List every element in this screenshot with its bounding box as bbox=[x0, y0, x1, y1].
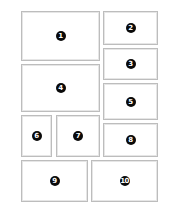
number-badge-5: 5 bbox=[126, 97, 136, 107]
number-badge-9: 9 bbox=[50, 176, 60, 186]
panel-4: 4 bbox=[21, 64, 100, 112]
panel-10: 10 bbox=[91, 160, 158, 202]
number-badge-4: 4 bbox=[56, 83, 66, 93]
number-badge-6: 6 bbox=[32, 131, 42, 141]
panel-6: 6 bbox=[21, 115, 52, 157]
panel-1: 1 bbox=[21, 11, 100, 61]
panel-9: 9 bbox=[21, 160, 88, 202]
panel-2: 2 bbox=[103, 11, 158, 45]
number-badge-7: 7 bbox=[73, 131, 83, 141]
number-badge-2: 2 bbox=[126, 23, 136, 33]
panel-7: 7 bbox=[56, 115, 100, 157]
panel-5: 5 bbox=[103, 83, 158, 120]
panel-8: 8 bbox=[103, 123, 158, 157]
number-badge-1: 1 bbox=[56, 31, 66, 41]
panel-3: 3 bbox=[103, 48, 158, 80]
number-badge-8: 8 bbox=[126, 135, 136, 145]
number-badge-3: 3 bbox=[126, 59, 136, 69]
number-badge-10: 10 bbox=[120, 176, 130, 186]
